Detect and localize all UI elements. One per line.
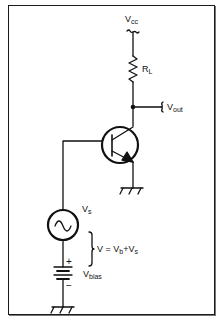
- vout-label: Vout: [167, 103, 183, 112]
- voltage-sum-bracket-icon: [89, 232, 94, 266]
- voltage-sum-label: V = Vb+Vs: [97, 245, 138, 254]
- battery-icon: [54, 267, 72, 279]
- wire-base: [63, 141, 102, 210]
- battery-plus-sign: +: [66, 257, 72, 267]
- ground-icon: [120, 188, 143, 194]
- vcc-label: Vcc: [125, 15, 138, 24]
- ground-icon: [51, 307, 74, 313]
- rl-label: RL: [142, 65, 152, 74]
- vbias-label: Vbias: [83, 270, 102, 279]
- ac-source-icon: [48, 210, 78, 240]
- circuit-diagram: Vcc RL Vout Vs V = Vb+Vs + − Vbias: [0, 0, 221, 322]
- vs-label: Vs: [82, 205, 92, 214]
- resistor-icon: [129, 56, 137, 82]
- npn-transistor-icon: [102, 127, 138, 163]
- battery-minus-sign: −: [66, 281, 72, 291]
- schematic-drawing: [0, 0, 221, 322]
- vout-terminal-icon: [161, 102, 163, 112]
